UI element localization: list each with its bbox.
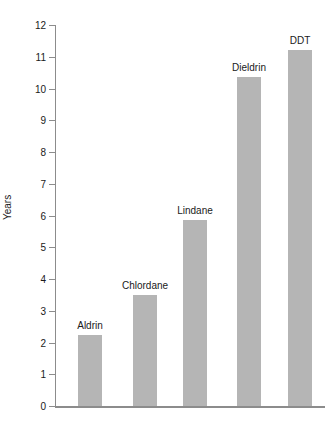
bar-dieldrin — [237, 77, 261, 406]
bar-chlordane — [133, 295, 157, 406]
y-tick-mark — [49, 247, 56, 248]
bar-ddt — [288, 50, 312, 406]
bar-label-chlordane: Chlordane — [122, 280, 168, 291]
y-tick-mark — [49, 89, 56, 90]
bar-chart: Years 0123456789101112 AldrinChlordaneLi… — [0, 0, 334, 430]
y-tick-mark — [49, 311, 56, 312]
y-tick-mark — [49, 25, 56, 26]
y-tick-label: 1 — [22, 369, 46, 380]
y-tick-label: 0 — [22, 401, 46, 412]
y-tick-label: 8 — [22, 147, 46, 158]
y-tick-label: 4 — [22, 274, 46, 285]
y-tick-mark — [49, 57, 56, 58]
bar-label-aldrin: Aldrin — [77, 320, 103, 331]
y-tick-mark — [49, 120, 56, 121]
y-tick-label: 12 — [22, 20, 46, 31]
bar-label-dieldrin: Dieldrin — [232, 62, 266, 73]
bar-aldrin — [78, 335, 102, 406]
y-tick-label: 6 — [22, 210, 46, 221]
y-tick-mark — [49, 184, 56, 185]
y-tick-label: 7 — [22, 178, 46, 189]
y-tick-label: 9 — [22, 115, 46, 126]
y-tick-mark — [49, 343, 56, 344]
bar-label-ddt: DDT — [290, 35, 311, 46]
y-tick-label: 10 — [22, 83, 46, 94]
y-tick-label: 2 — [22, 337, 46, 348]
y-tick-mark — [49, 279, 56, 280]
bar-lindane — [183, 220, 207, 406]
bar-label-lindane: Lindane — [177, 205, 213, 216]
y-tick-label: 5 — [22, 242, 46, 253]
plot-area: 0123456789101112 AldrinChlordaneLindaneD… — [0, 0, 334, 430]
y-tick-mark — [49, 374, 56, 375]
y-tick-mark — [49, 406, 56, 407]
y-tick-mark — [49, 152, 56, 153]
x-axis-line — [55, 406, 325, 408]
y-tick-label: 11 — [22, 51, 46, 62]
y-tick-label: 3 — [22, 305, 46, 316]
y-tick-mark — [49, 216, 56, 217]
